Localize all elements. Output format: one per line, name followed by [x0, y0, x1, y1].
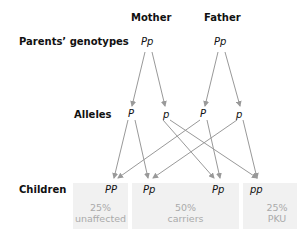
group-unaffected: 25% unaffected	[73, 202, 128, 224]
group-pku: 25% PKU	[250, 202, 299, 224]
label: unaffected	[73, 213, 128, 224]
child-Pp-1: Pp	[143, 184, 155, 195]
child-PP: PP	[105, 184, 117, 195]
allele-father-P: P	[200, 108, 206, 119]
row-label-children: Children	[19, 184, 66, 195]
row-label-alleles: Alleles	[74, 109, 112, 120]
header-mother: Mother	[131, 12, 171, 23]
row-label-parents: Parents’ genotypes	[19, 36, 129, 47]
percent: 25%	[73, 202, 128, 213]
child-pp: pp	[250, 184, 263, 195]
header-father: Father	[204, 12, 241, 23]
label: PKU	[250, 213, 299, 224]
group-carriers: 50% carriers	[132, 202, 239, 224]
percent: 25%	[250, 202, 299, 213]
father-genotype: Pp	[214, 36, 226, 47]
allele-mother-p: p	[163, 109, 169, 120]
punnett-inheritance-diagram: Mother Father Parents’ genotypes Pp Pp A…	[0, 0, 299, 241]
label: carriers	[132, 213, 239, 224]
child-Pp-2: Pp	[212, 184, 224, 195]
percent: 50%	[132, 202, 239, 213]
allele-mother-P: P	[128, 108, 134, 119]
allele-father-p: p	[236, 109, 242, 120]
mother-genotype: Pp	[141, 36, 153, 47]
